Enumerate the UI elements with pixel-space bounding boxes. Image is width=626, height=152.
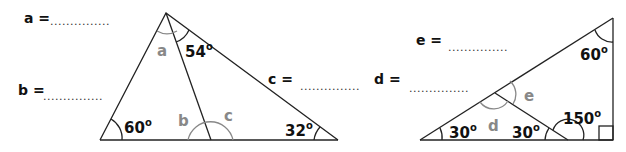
arc-32 [314,127,320,140]
answer-a-label: a = [24,10,50,26]
angle-60: 60o [124,117,152,137]
angle-32: 32o [285,120,313,140]
answer-e: e = ............... [416,32,508,54]
answer-e-label: e = [416,32,442,48]
answer-a: a = ............... [24,10,110,28]
arc-30-mid [545,128,549,140]
arc-60 [111,119,122,140]
angle-60-top: 60o [580,44,608,64]
answer-c-blank[interactable]: ............... [300,80,360,93]
answer-d-blank[interactable]: ............... [409,82,469,95]
unknown-c: c [224,107,233,125]
unknown-b: b [178,112,189,130]
angle-30-mid: 30o [512,122,540,142]
answer-d-label: d = [374,71,401,87]
arc-a [157,31,177,34]
answer-c: c = ............... [268,71,360,93]
angle-150: 150o [563,108,601,128]
answer-b: b = ............... [18,82,103,103]
arc-60-top [595,30,613,42]
angle-30-left: 30o [449,122,477,142]
answer-a-blank[interactable]: ............... [50,15,110,28]
answer-b-label: b = [18,82,45,98]
arc-54 [176,30,189,42]
answer-d: d = ............... [374,71,469,95]
unknown-e: e [524,87,534,105]
answer-c-label: c = [268,71,293,87]
arc-e [510,81,516,104]
unknown-d: d [488,117,499,135]
angle-54: 54o [185,41,213,61]
unknown-a: a [157,42,167,60]
arc-d [480,101,508,109]
arc-30-left [440,128,442,140]
right-angle-marker [599,126,613,140]
answer-b-blank[interactable]: ............... [43,90,103,103]
answer-e-blank[interactable]: ............... [448,41,508,54]
diagram-canvas: a = ............... b = ............... … [0,0,626,152]
